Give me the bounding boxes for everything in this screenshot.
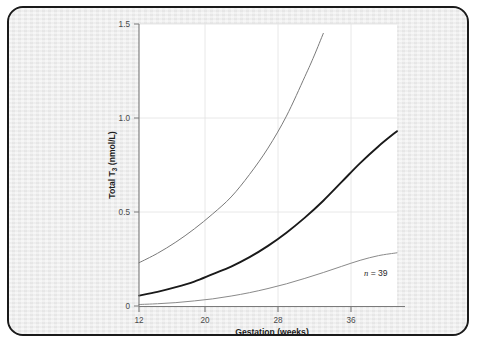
x-axis-title: Gestation (weeks): [235, 327, 309, 336]
y-tick-label-1_0: 1.0: [119, 114, 131, 123]
y-axis-title-group: Total T3 (nmol/L): [107, 131, 118, 198]
y-tick-label-0_5: 0.5: [119, 208, 131, 217]
annotation-sample-size: n = 39: [364, 268, 388, 278]
annotation-n-value: = 39: [368, 268, 388, 278]
y-tick-label-0: 0: [125, 302, 130, 311]
y-axis-title-main: Total T: [107, 170, 117, 198]
chart-curves-layer: 1.5 1.0 0.5 0 12 20 28 36 Gestation (wee…: [9, 8, 469, 336]
x-tick-label-12: 12: [134, 316, 144, 325]
svg-text:n = 39: n = 39: [364, 268, 388, 278]
y-tick-label-1_5: 1.5: [119, 20, 131, 29]
svg-text:Total T3 (nmol/L): Total T3 (nmol/L): [107, 131, 118, 198]
x-tick-label-28: 28: [273, 316, 283, 325]
figure-frame: 1.5 1.0 0.5 0 12 20 28 36 Gestation (wee…: [7, 6, 469, 336]
x-tick-label-20: 20: [200, 316, 210, 325]
x-tick-label-36: 36: [346, 316, 356, 325]
y-axis-title-units: (nmol/L): [107, 131, 117, 167]
